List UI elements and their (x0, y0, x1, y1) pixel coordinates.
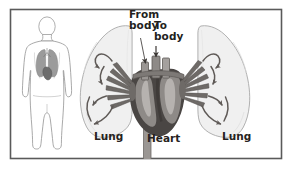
label-to-body-line2: body (154, 30, 184, 42)
label-lung-right: Lung (222, 130, 251, 142)
label-heart: Heart (147, 132, 180, 144)
pulmonary-circulation-figure: From body To body Lung Heart Lung (0, 0, 292, 176)
label-lung-left: Lung (94, 130, 123, 142)
diagram-canvas: From body To body Lung Heart Lung (0, 0, 292, 176)
